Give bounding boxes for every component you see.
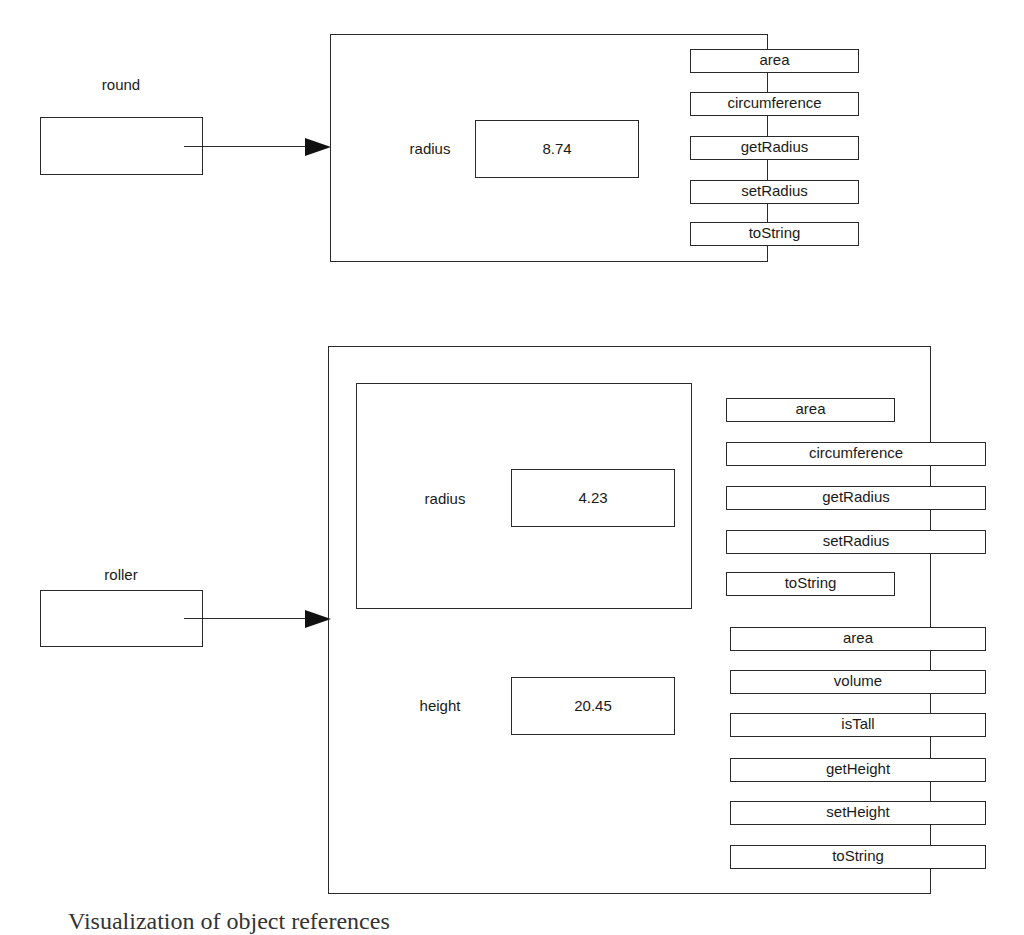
method-circumference: circumference (726, 442, 986, 466)
method-circumference: circumference (690, 92, 859, 116)
field-value-radius: 4.23 (511, 469, 675, 527)
field-value-radius: 8.74 (475, 120, 639, 178)
field-label-radius: radius (390, 140, 470, 157)
method-volume: volume (730, 670, 986, 694)
reference-box-round (40, 117, 203, 175)
arrowhead-icon (305, 138, 331, 156)
field-label-height: height (400, 697, 480, 714)
method-getRadius: getRadius (726, 486, 986, 510)
figure-caption: Visualization of object references (68, 908, 390, 935)
method-setRadius: setRadius (726, 530, 986, 554)
reference-arrow-roller (184, 618, 308, 619)
method-area: area (726, 398, 895, 422)
variable-label-round: round (40, 76, 202, 93)
method-area: area (730, 627, 986, 651)
method-getRadius: getRadius (690, 136, 859, 160)
method-setHeight: setHeight (730, 801, 986, 825)
variable-label-roller: roller (40, 566, 202, 583)
method-toString: toString (726, 572, 895, 596)
reference-arrow-round (184, 146, 308, 147)
method-isTall: isTall (730, 713, 986, 737)
field-label-radius: radius (405, 490, 485, 507)
method-toString: toString (690, 222, 859, 246)
method-toString: toString (730, 845, 986, 869)
method-getHeight: getHeight (730, 758, 986, 782)
method-setRadius: setRadius (690, 180, 859, 204)
inner-object-right-edge (691, 383, 692, 609)
field-value-height: 20.45 (511, 677, 675, 735)
method-area: area (690, 49, 859, 73)
reference-box-roller (40, 590, 203, 647)
